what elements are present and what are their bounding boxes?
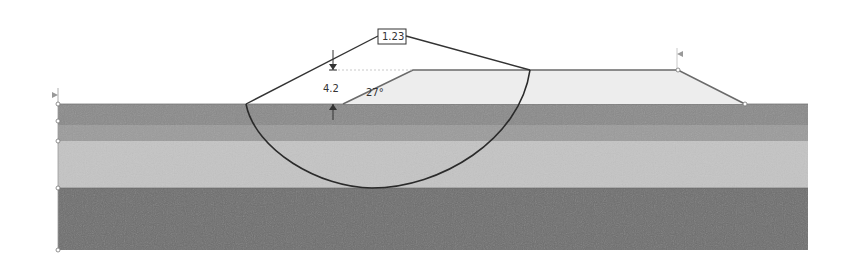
factor-of-safety-value: 1.23 <box>382 31 404 42</box>
soil-layer-1 <box>58 104 808 125</box>
slope-angle-label: 27° <box>366 87 384 98</box>
soil-layer-3 <box>58 141 808 188</box>
vertex-handle[interactable] <box>56 119 60 123</box>
vertex-handle[interactable] <box>56 186 60 190</box>
left-boundary-flag-icon[interactable] <box>52 92 58 98</box>
vertex-handle[interactable] <box>56 102 60 106</box>
soil-layer-2 <box>58 125 808 141</box>
factor-of-safety-badge[interactable]: 1.23 <box>378 29 406 44</box>
vertex-handle[interactable] <box>56 139 60 143</box>
slope-stability-diagram: 4.2 27° 1.23 <box>0 0 845 260</box>
vertex-handle[interactable] <box>56 248 60 252</box>
height-label: 4.2 <box>323 83 339 94</box>
soil-layer-4 <box>58 188 808 250</box>
vertex-handle[interactable] <box>676 68 680 72</box>
right-boundary-flag-icon[interactable] <box>677 51 683 57</box>
vertex-handle[interactable] <box>743 102 747 106</box>
